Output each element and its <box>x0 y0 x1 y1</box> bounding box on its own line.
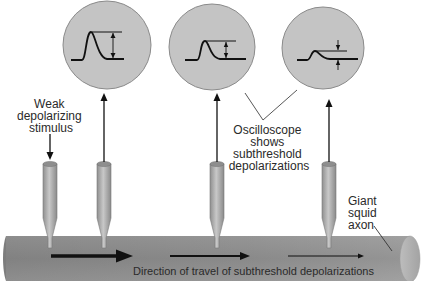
axon-label: Giant squid axon <box>348 194 380 232</box>
recording-arrow-1 <box>101 93 108 162</box>
stimulus-arrow <box>47 134 54 160</box>
diagram-canvas: Weak depolarizing stimulus Oscilloscope … <box>0 0 427 281</box>
oscilloscope-3 <box>282 7 364 89</box>
recording-arrow-2 <box>214 93 221 162</box>
stimulus-label: Weak depolarizing stimulus <box>17 97 85 135</box>
oscilloscope-callout-lines <box>245 90 297 120</box>
axon-end-cap <box>400 236 420 281</box>
recording-electrode-2 <box>210 161 224 248</box>
oscilloscope-1 <box>63 1 151 89</box>
recording-electrode-1 <box>97 161 111 248</box>
recording-electrode-3 <box>322 161 336 248</box>
oscilloscope-label: Oscilloscope shows subthreshold depolari… <box>229 123 310 173</box>
oscilloscope-2 <box>169 4 255 90</box>
direction-label: Direction of travel of subthreshold depo… <box>133 265 374 277</box>
stimulating-electrode <box>43 161 57 248</box>
recording-arrow-3 <box>326 99 333 162</box>
